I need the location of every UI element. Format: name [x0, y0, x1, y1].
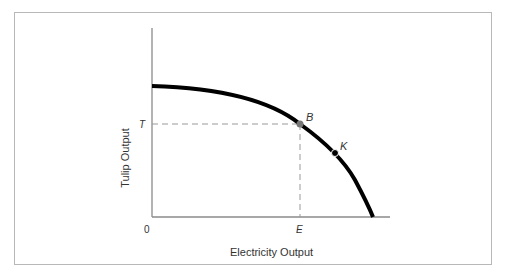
- label-k: K: [340, 140, 348, 152]
- ppf-chart: B K T E 0 Electricity Output Tulip Outpu…: [0, 0, 506, 278]
- label-b: B: [306, 111, 313, 123]
- tick-t: T: [139, 119, 146, 130]
- x-axis-label: Electricity Output: [230, 246, 313, 258]
- point-b: [297, 121, 304, 128]
- point-k: [332, 150, 339, 157]
- tick-e: E: [296, 224, 303, 235]
- origin-label: 0: [144, 224, 150, 235]
- y-axis-label: Tulip Output: [119, 128, 131, 188]
